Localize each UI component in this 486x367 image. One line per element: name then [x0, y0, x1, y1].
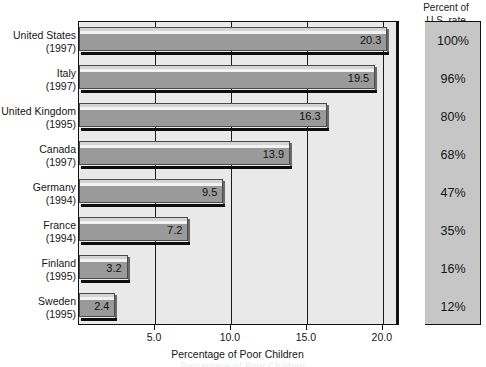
- category-country: Canada: [0, 143, 76, 156]
- x-axis-title: Percentage of Poor Children: [78, 348, 397, 360]
- percent-of-us-rate-value: 47%: [425, 174, 481, 212]
- bar-side-face: [387, 29, 389, 53]
- bar-side-face: [327, 105, 329, 129]
- category-label: Germany(1994): [0, 181, 76, 206]
- category-label: Italy(1997): [0, 67, 76, 92]
- chart-bar-row: 13.9: [79, 136, 396, 174]
- category-label: Canada(1997): [0, 143, 76, 168]
- bar-shadow: [81, 242, 190, 245]
- bar-value-label: 20.3: [360, 34, 381, 46]
- bar-shadow: [81, 128, 329, 131]
- chart-plot-area: 20.319.516.313.99.57.23.22.4: [78, 21, 397, 325]
- category-label: France(1994): [0, 219, 76, 244]
- bar-value-label: 7.2: [167, 224, 182, 236]
- chart-bar-row: 3.2: [79, 250, 396, 288]
- bar-value-label: 16.3: [299, 110, 320, 122]
- category-country: Italy: [0, 67, 76, 80]
- bar-shadow: [81, 318, 117, 321]
- bar-value-label: 9.5: [202, 186, 217, 198]
- percent-of-us-rate-value: 80%: [425, 98, 481, 136]
- bar-body: [79, 65, 375, 89]
- bar-body: [79, 141, 290, 165]
- bar-canada: 13.9: [79, 141, 290, 169]
- bar-united-kingdom: 16.3: [79, 103, 327, 131]
- bar-shadow: [81, 166, 292, 169]
- chart-bar-row: 19.5: [79, 60, 396, 98]
- percent-of-us-rate-value: 35%: [425, 212, 481, 250]
- bar-body: [79, 103, 327, 127]
- bar-germany: 9.5: [79, 179, 223, 207]
- x-axis-tick: [382, 325, 383, 330]
- bar-side-face: [115, 295, 117, 319]
- chart-bar-row: 7.2: [79, 212, 396, 250]
- bar-side-face: [290, 143, 292, 167]
- percent-of-us-rate-value: 96%: [425, 60, 481, 98]
- category-year: (1997): [0, 156, 76, 169]
- category-country: France: [0, 219, 76, 232]
- category-label: United Kingdom(1995): [0, 105, 76, 130]
- category-year: (1997): [0, 42, 76, 55]
- category-year: (1994): [0, 194, 76, 207]
- category-country: Finland: [0, 257, 76, 270]
- x-axis-tick-label: 20.0: [352, 331, 412, 343]
- percent-of-us-rate-value: 12%: [425, 288, 481, 326]
- category-label: Finland(1995): [0, 257, 76, 282]
- bar-value-label: 2.4: [94, 300, 109, 312]
- bar-finland: 3.2: [79, 255, 128, 283]
- bar-shadow: [81, 280, 130, 283]
- x-axis-tick-label: 15.0: [276, 331, 336, 343]
- x-axis-tick: [230, 325, 231, 330]
- percent-header-line-1: Percent of: [408, 2, 484, 15]
- bar-side-face: [188, 219, 190, 243]
- bar-side-face: [223, 181, 225, 205]
- category-year: (1995): [0, 308, 76, 321]
- category-year: (1995): [0, 118, 76, 131]
- bar-sweden: 2.4: [79, 293, 115, 321]
- bar-value-label: 13.9: [263, 148, 284, 160]
- category-label: United States(1997): [0, 29, 76, 54]
- bar-shadow: [81, 52, 389, 55]
- category-country: Sweden: [0, 295, 76, 308]
- bar-side-face: [375, 67, 377, 91]
- panel-divider: [397, 21, 399, 325]
- chart-bar-row: 16.3: [79, 98, 396, 136]
- chart-bar-row: 2.4: [79, 288, 396, 326]
- bar-value-label: 3.2: [106, 262, 121, 274]
- x-axis-tick-label: 10.0: [200, 331, 260, 343]
- bar-italy: 19.5: [79, 65, 375, 93]
- category-country: United States: [0, 29, 76, 42]
- bar-shadow: [81, 90, 377, 93]
- percent-of-us-rate-value: 68%: [425, 136, 481, 174]
- chart-bar-row: 20.3: [79, 22, 396, 60]
- percent-of-us-rate-value: 16%: [425, 250, 481, 288]
- bar-united-states: 20.3: [79, 27, 387, 55]
- category-year: (1995): [0, 270, 76, 283]
- bar-body: [79, 27, 387, 51]
- percent-of-us-rate-value: 100%: [425, 22, 481, 60]
- bar-side-face: [128, 257, 130, 281]
- category-country: United Kingdom: [0, 105, 76, 118]
- x-axis-tick: [154, 325, 155, 330]
- category-year: (1997): [0, 80, 76, 93]
- x-axis-tick: [306, 325, 307, 330]
- percent-of-us-rate-panel: 100%96%80%68%47%35%16%12%: [425, 21, 481, 325]
- bar-value-label: 19.5: [348, 72, 369, 84]
- category-year: (1994): [0, 232, 76, 245]
- category-country: Germany: [0, 181, 76, 194]
- category-label: Sweden(1995): [0, 295, 76, 320]
- bar-shadow: [81, 204, 225, 207]
- x-axis-tick-label: 5.0: [124, 331, 184, 343]
- chart-bar-row: 9.5: [79, 174, 396, 212]
- bar-france: 7.2: [79, 217, 188, 245]
- scan-bleed-artifact: Percentage of Poor Children: [0, 361, 486, 367]
